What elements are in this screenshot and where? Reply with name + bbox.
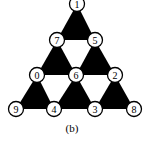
- node-3: 3: [88, 102, 103, 117]
- node-label: 1: [75, 0, 80, 10]
- node-4: 4: [47, 102, 62, 117]
- node-label: 4: [52, 104, 57, 115]
- figure-caption: (b): [66, 122, 79, 135]
- node-label: 8: [132, 104, 137, 115]
- node-label: 7: [55, 35, 60, 46]
- node-5: 5: [88, 33, 103, 48]
- node-label: 3: [93, 104, 98, 115]
- node-label: 0: [35, 70, 40, 81]
- node-label: 9: [14, 104, 19, 115]
- node-8: 8: [127, 102, 142, 117]
- node-9: 9: [9, 102, 24, 117]
- node-label: 6: [74, 70, 79, 81]
- filled-triangles-layer: [16, 4, 134, 109]
- node-6: 6: [69, 68, 84, 83]
- triangle-graph-diagram: 1750629438 (b): [0, 0, 149, 143]
- node-label: 5: [93, 35, 98, 46]
- node-0: 0: [30, 68, 45, 83]
- node-7: 7: [50, 33, 65, 48]
- node-1: 1: [70, 0, 85, 12]
- node-2: 2: [108, 68, 123, 83]
- node-label: 2: [113, 70, 118, 81]
